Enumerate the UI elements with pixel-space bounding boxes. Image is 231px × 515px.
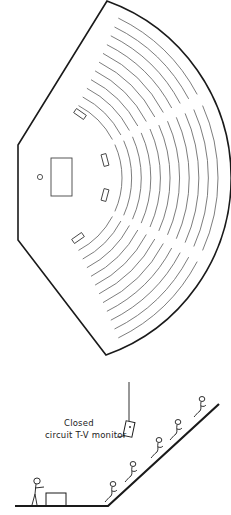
seating-row-arc	[103, 244, 163, 303]
seating-row-arc	[79, 106, 113, 140]
monitor-label-line1: Closed	[64, 418, 94, 428]
plan-view	[18, 1, 231, 355]
audience-figures	[105, 397, 206, 503]
monitor-icon	[101, 189, 109, 202]
speaker-position-circle	[37, 174, 42, 179]
lectern-table	[51, 158, 72, 196]
seating-row-arc	[111, 36, 180, 104]
seating-row-arc	[133, 137, 142, 219]
seating-row-arc	[111, 253, 180, 321]
audience-figure	[125, 462, 137, 483]
seating-row-arc	[194, 110, 209, 247]
seating-row-arc	[83, 221, 121, 259]
seating-row-arc	[185, 113, 199, 242]
seating-row-arc	[115, 257, 189, 329]
seating-row-arc	[91, 80, 138, 126]
seating-rows	[79, 18, 218, 338]
monitor-label-line2: circuit T-V monitor	[45, 430, 126, 440]
seating-row-arc	[115, 145, 122, 212]
seating-row-arc	[87, 88, 129, 130]
seating-row-arc	[150, 129, 160, 227]
floor-and-rake	[15, 404, 219, 506]
monitor-icon	[101, 154, 109, 167]
seating-row-arc	[87, 226, 129, 268]
seating-row-arc	[203, 106, 218, 251]
presenter-table	[46, 493, 66, 506]
monitor-icon	[72, 233, 85, 244]
section-view	[15, 382, 219, 506]
presenter-figure	[32, 478, 44, 505]
seating-row-arc	[79, 217, 113, 251]
seating-row-arc	[141, 133, 151, 223]
seating-row-arc	[115, 27, 189, 99]
audience-figure	[194, 397, 206, 418]
monitor-icon	[74, 109, 87, 120]
seating-row-arc	[124, 141, 132, 216]
seating-row-arc	[176, 117, 189, 238]
seating-row-arc	[91, 230, 138, 276]
seating-row-arc	[118, 18, 197, 94]
tv-monitors-plan	[72, 109, 109, 244]
seating-row-arc	[103, 53, 163, 112]
seating-row-arc	[168, 121, 180, 235]
audience-figure	[170, 420, 182, 441]
seating-row-arc	[83, 97, 121, 135]
audience-figure	[151, 438, 163, 459]
